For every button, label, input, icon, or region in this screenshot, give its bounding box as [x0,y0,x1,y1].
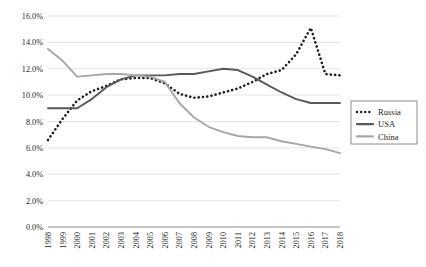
x-axis-tick-label: 2008 [190,232,199,248]
x-axis-tick-label: 2002 [102,232,111,248]
chart-svg: 0.0%2.0%4.0%6.0%8.0%10.0%12.0%14.0%16.0%… [0,0,426,267]
x-axis-tick-label: 2003 [117,232,126,248]
y-axis-tick-label: 8.0% [26,118,43,127]
line-chart: 0.0%2.0%4.0%6.0%8.0%10.0%12.0%14.0%16.0%… [0,0,426,267]
y-axis-tick-label: 2.0% [26,197,43,206]
y-axis-tick-label: 16.0% [22,12,43,21]
x-axis-tick-label: 2009 [205,232,214,248]
x-axis-tick-labels: 1998199920002001200220032004200520062007… [44,232,345,248]
x-axis-tick-label: 2018 [336,232,345,248]
y-axis-tick-label: 14.0% [22,38,43,47]
y-axis-tick-label: 4.0% [26,170,43,179]
x-axis-tick-label: 2013 [263,232,272,248]
y-axis-tick-label: 6.0% [26,144,43,153]
x-axis-tick-label: 2007 [175,232,184,248]
chart-legend: RussiaUSAChina [351,101,417,144]
x-axis-tick-label: 1998 [44,232,53,248]
legend-label-china: China [378,132,399,142]
x-axis-tick-label: 2012 [248,232,257,248]
y-axis-tick-label: 0.0% [26,223,43,232]
x-axis-tick-label: 1999 [59,232,68,248]
legend-label-russia: Russia [378,107,401,117]
y-axis-tick-label: 10.0% [22,91,43,100]
y-axis-tick-labels: 0.0%2.0%4.0%6.0%8.0%10.0%12.0%14.0%16.0% [22,12,43,232]
x-axis-tick-label: 2006 [161,232,170,248]
x-axis-tick-label: 2014 [278,232,287,248]
legend-label-usa: USA [378,119,396,129]
x-axis-tick-label: 2017 [321,232,330,248]
x-axis-tick-label: 2015 [292,232,301,248]
x-axis-tick-label: 2000 [73,232,82,248]
x-axis-tick-label: 2001 [88,232,97,248]
x-axis-tick-label: 2010 [219,232,228,248]
x-axis-tick-label: 2004 [132,232,141,248]
x-axis-tick-label: 2005 [146,232,155,248]
x-axis-tick-label: 2011 [234,232,243,248]
x-axis-tick-label: 2016 [307,232,316,248]
y-axis-tick-label: 12.0% [22,65,43,74]
